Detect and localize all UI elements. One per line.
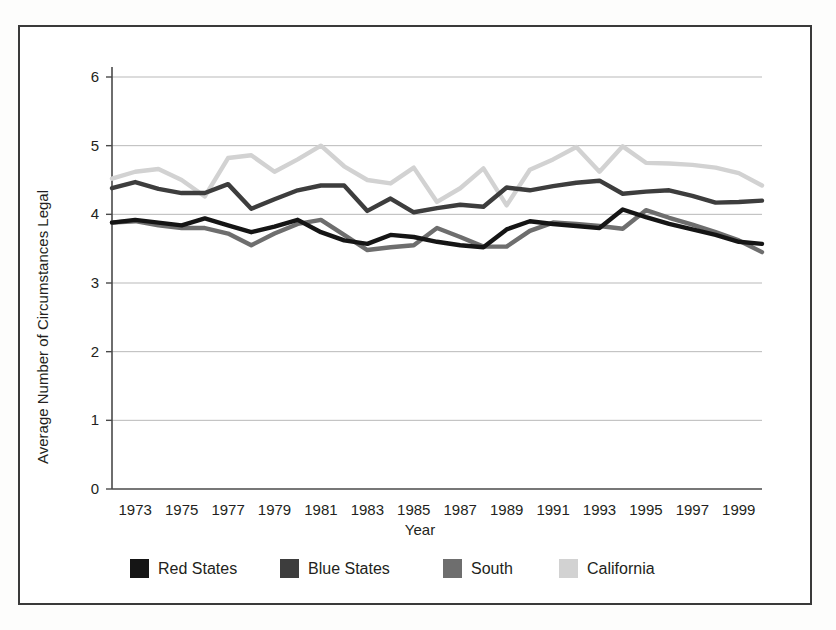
- series-line: [112, 210, 762, 252]
- legend-swatch: [559, 559, 578, 578]
- x-tick-label: 1991: [536, 501, 569, 518]
- y-tick-label: 4: [91, 205, 99, 222]
- legend-label: Blue States: [308, 560, 390, 577]
- x-tick-label: 1999: [722, 501, 755, 518]
- y-tick-label: 5: [91, 137, 99, 154]
- x-tick-label: 1981: [304, 501, 337, 518]
- series-line: [112, 146, 762, 206]
- legend-label: South: [471, 560, 513, 577]
- y-tick-label: 2: [91, 343, 99, 360]
- x-tick-labels: 1973197519771979198119831985198719891991…: [119, 501, 756, 518]
- x-tick-label: 1983: [351, 501, 384, 518]
- y-tick-label: 3: [91, 274, 99, 291]
- x-tick-label: 1997: [676, 501, 709, 518]
- x-tick-label: 1993: [583, 501, 616, 518]
- figure-frame: 0123456 19731975197719791981198319851987…: [18, 25, 812, 605]
- grid-lines: [112, 77, 762, 420]
- legend-label: California: [587, 560, 655, 577]
- x-tick-label: 1985: [397, 501, 430, 518]
- x-tick-label: 1975: [165, 501, 198, 518]
- x-tick-label: 1989: [490, 501, 523, 518]
- legend-swatch: [443, 559, 462, 578]
- legend-swatch: [280, 559, 299, 578]
- x-tick-label: 1995: [629, 501, 662, 518]
- legend-label: Red States: [158, 560, 237, 577]
- x-tick-label: 1977: [211, 501, 244, 518]
- y-tick-label: 0: [91, 480, 99, 497]
- x-axis-title: Year: [405, 521, 435, 538]
- x-tick-label: 1987: [444, 501, 477, 518]
- chart-legend: Red StatesBlue StatesSouthCalifornia: [130, 559, 655, 578]
- y-tick-label: 6: [91, 68, 99, 85]
- line-chart: 0123456 19731975197719791981198319851987…: [20, 27, 810, 603]
- y-tick-labels: 0123456: [91, 68, 112, 497]
- y-tick-label: 1: [91, 411, 99, 428]
- legend-swatch: [130, 559, 149, 578]
- axis-lines: [112, 67, 762, 489]
- data-series-group: [112, 146, 762, 252]
- x-tick-label: 1979: [258, 501, 291, 518]
- x-tick-label: 1973: [119, 501, 152, 518]
- y-axis-title: Average Number of Circumstances Legal: [34, 190, 51, 464]
- figure-page: 0123456 19731975197719791981198319851987…: [0, 0, 836, 630]
